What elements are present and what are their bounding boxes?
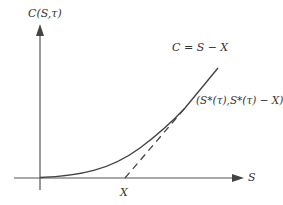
x-axis-arrow-icon [232, 174, 244, 182]
y-axis-label: C(S,τ) [28, 8, 62, 19]
x-axis-label: S [248, 172, 256, 183]
payoff-dashed-line [125, 108, 185, 178]
x-axis [14, 174, 244, 182]
payoff-line-label: C = S − X [172, 42, 228, 53]
option-value-curve [40, 68, 218, 178]
tangency-point-label: (S*(τ),S*(τ) − X) [196, 95, 283, 106]
y-axis [36, 24, 44, 190]
y-axis-arrow-icon [36, 24, 44, 36]
strike-price-label: X [120, 187, 128, 198]
option-value-diagram: C(S,τ) S X C = S − X (S*(τ),S*(τ) − X) [0, 0, 283, 205]
